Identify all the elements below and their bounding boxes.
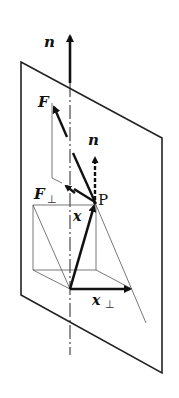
label-force: F — [37, 93, 50, 111]
label-force-perp-sub: ⊥ — [47, 193, 57, 206]
label-point-p: P — [98, 191, 108, 209]
label-position-perp-sub: ⊥ — [105, 298, 115, 311]
label-force-perp: F — [33, 185, 46, 203]
point-p-dot — [93, 201, 97, 205]
label-normal-at-p: n — [88, 131, 99, 149]
label-position-perp: x — [91, 292, 101, 308]
vector-plane-diagram: n F n F ⊥ P x x ⊥ — [0, 0, 179, 398]
label-normal-top: n — [44, 33, 55, 51]
label-position: x — [72, 208, 82, 224]
force-vector-upper — [54, 107, 67, 137]
force-perp-vector — [66, 186, 75, 193]
